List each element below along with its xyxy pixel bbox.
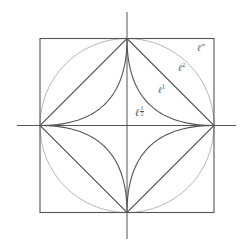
label-l-infinity: ℓ∞: [197, 42, 206, 53]
label-exponent: ∞: [201, 41, 206, 48]
fraction-denominator: 2: [141, 112, 144, 117]
label-exponent: 1: [162, 83, 166, 90]
label-base: ℓ: [135, 107, 139, 118]
lp-norm-unit-balls-diagram: [0, 0, 246, 248]
label-exponent: 2: [182, 61, 186, 68]
label-l-half: ℓ12: [135, 106, 144, 118]
label-l2: ℓ2: [178, 62, 186, 73]
label-l1: ℓ1: [158, 84, 166, 95]
label-fraction-exponent: 12: [140, 106, 144, 117]
